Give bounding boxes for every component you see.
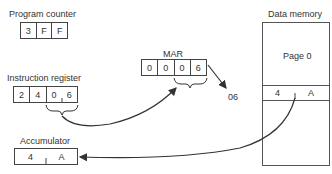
- mar-to-address-arrow: [208, 65, 226, 88]
- ir-to-mar-arrow: [62, 88, 176, 126]
- ir-brace: [46, 105, 78, 115]
- diagram-connectors: [0, 0, 332, 174]
- mar-brace: [174, 78, 207, 88]
- memory-to-accumulator-arrow: [80, 98, 295, 158]
